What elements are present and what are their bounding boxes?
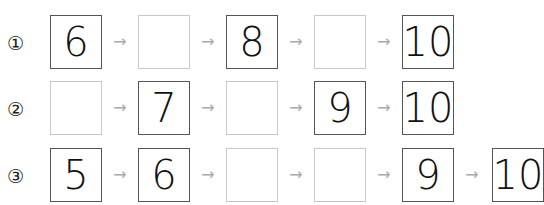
sequence-row: ③5→6→→→9→10 <box>0 145 534 205</box>
row-number: ① <box>7 32 24 54</box>
arrow-icon: → <box>280 169 312 181</box>
number-box: 6 <box>138 148 190 202</box>
arrow-icon: → <box>368 169 400 181</box>
arrow-icon: → <box>104 169 136 181</box>
arrow-icon: → <box>192 102 224 114</box>
arrow-icon: → <box>104 102 136 114</box>
answer-box[interactable] <box>226 148 278 202</box>
number-box: 9 <box>402 148 454 202</box>
arrow-icon: → <box>192 169 224 181</box>
number-box: 5 <box>50 148 102 202</box>
number-box: 10 <box>402 15 454 69</box>
number-box: 10 <box>492 148 544 202</box>
arrow-icon: → <box>368 102 400 114</box>
arrow-icon: → <box>368 36 400 48</box>
answer-box[interactable] <box>226 81 278 135</box>
arrow-icon: → <box>456 169 488 181</box>
number-box: 7 <box>138 81 190 135</box>
number-box: 6 <box>50 15 102 69</box>
arrow-icon: → <box>280 36 312 48</box>
arrow-icon: → <box>280 102 312 114</box>
row-number: ③ <box>7 165 24 187</box>
answer-box[interactable] <box>314 15 366 69</box>
answer-box[interactable] <box>314 148 366 202</box>
answer-box[interactable] <box>50 81 102 135</box>
number-box: 10 <box>402 81 454 135</box>
arrow-icon: → <box>104 36 136 48</box>
sequence-row: ①6→→8→→10 <box>0 12 534 72</box>
arrow-icon: → <box>192 36 224 48</box>
answer-box[interactable] <box>138 15 190 69</box>
row-number: ② <box>7 98 24 120</box>
number-box: 9 <box>314 81 366 135</box>
sequence-row: ②→7→→9→10 <box>0 78 534 138</box>
number-box: 8 <box>226 15 278 69</box>
